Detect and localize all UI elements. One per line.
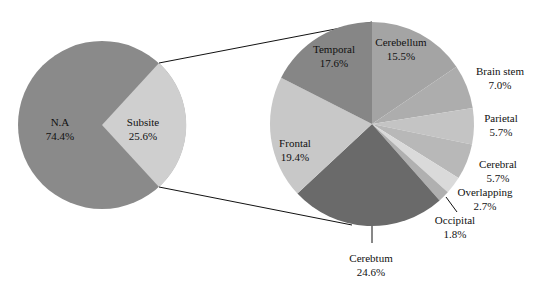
left-pie — [18, 41, 186, 209]
label-parietal-pct: 5.7% — [484, 125, 518, 139]
label-subsite: Subsite 25.6% — [127, 115, 159, 143]
label-cerebtum-pct: 24.6% — [349, 265, 392, 279]
label-cerebtum-name: Cerebtum — [349, 251, 392, 265]
label-cerebral: Cerebral 5.7% — [479, 157, 517, 185]
leader-occipital — [446, 197, 457, 212]
label-cerebral-name: Cerebral — [479, 157, 517, 171]
label-occipital-pct: 1.8% — [435, 227, 475, 241]
label-na: N.A 74.4% — [46, 115, 74, 143]
label-na-name: N.A — [46, 115, 74, 129]
label-na-pct: 74.4% — [46, 129, 74, 143]
label-temporal-name: Temporal — [313, 42, 355, 56]
label-cerebtum: Cerebtum 24.6% — [349, 251, 392, 279]
label-frontal: Frontal 19.4% — [279, 136, 311, 164]
label-subsite-name: Subsite — [127, 115, 159, 129]
label-cerebral-pct: 5.7% — [479, 171, 517, 185]
label-parietal: Parietal 5.7% — [484, 111, 518, 139]
label-parietal-name: Parietal — [484, 111, 518, 125]
label-brain-stem-name: Brain stem — [476, 64, 524, 78]
label-cerebellum: Cerebellum 15.5% — [375, 35, 426, 63]
label-subsite-pct: 25.6% — [127, 129, 159, 143]
pie-of-pie-chart — [0, 0, 537, 290]
label-brain-stem-pct: 7.0% — [476, 78, 524, 92]
label-overlapping: Overlapping 2.7% — [458, 185, 513, 213]
label-brain-stem: Brain stem 7.0% — [476, 64, 524, 92]
label-cerebellum-pct: 15.5% — [375, 49, 426, 63]
label-temporal: Temporal 17.6% — [313, 42, 355, 70]
label-occipital-name: Occipital — [435, 213, 475, 227]
label-cerebellum-name: Cerebellum — [375, 35, 426, 49]
label-frontal-name: Frontal — [279, 136, 311, 150]
label-occipital: Occipital 1.8% — [435, 213, 475, 241]
label-frontal-pct: 19.4% — [279, 150, 311, 164]
label-temporal-pct: 17.6% — [313, 56, 355, 70]
label-overlapping-pct: 2.7% — [458, 199, 513, 213]
label-overlapping-name: Overlapping — [458, 185, 513, 199]
right-pie — [270, 22, 474, 226]
